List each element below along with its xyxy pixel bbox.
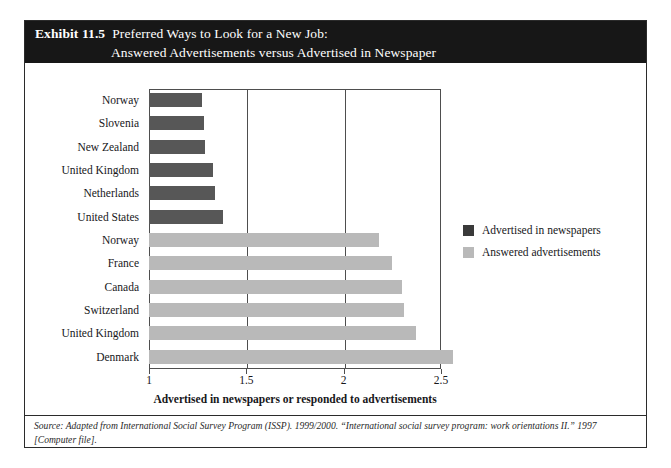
title-line-2: Answered Advertisements versus Advertise… <box>35 43 646 62</box>
x-tick-label: 2.5 <box>434 374 448 386</box>
x-tick-label: 1 <box>146 374 152 386</box>
exhibit-container: Exhibit 11.5Preferred Ways to Look for a… <box>24 20 647 448</box>
legend-item: Answered advertisements <box>463 241 643 263</box>
chart-area: NorwaySloveniaNew ZealandUnited KingdomN… <box>25 63 646 415</box>
bar <box>149 350 453 364</box>
category-label: United Kingdom <box>25 159 145 182</box>
category-label: Norway <box>25 229 145 252</box>
x-tick-label: 1.5 <box>239 374 253 386</box>
bar-row <box>149 322 441 345</box>
title-line-1: Exhibit 11.5Preferred Ways to Look for a… <box>35 24 646 43</box>
bar-row <box>149 136 441 159</box>
bar-row <box>149 206 441 229</box>
category-label: United Kingdom <box>25 322 145 345</box>
category-label: Canada <box>25 276 145 299</box>
bars-layer <box>149 89 441 369</box>
bar <box>149 303 404 317</box>
bar-row <box>149 276 441 299</box>
x-tick-label: 2 <box>341 374 347 386</box>
exhibit-number-label: Exhibit 11.5 <box>35 26 105 41</box>
legend-swatch-icon <box>463 225 474 236</box>
category-label: Switzerland <box>25 299 145 322</box>
bar-row <box>149 182 441 205</box>
x-axis-ticks: 11.522.5 <box>149 369 441 391</box>
category-label: Norway <box>25 89 145 112</box>
source-divider <box>25 415 646 416</box>
source-note: Source: Adapted from International Socia… <box>34 419 637 446</box>
bar-row <box>149 89 441 112</box>
legend-item: Advertised in newspapers <box>463 219 643 241</box>
category-label: United States <box>25 206 145 229</box>
category-label: Slovenia <box>25 112 145 135</box>
category-label: France <box>25 252 145 275</box>
exhibit-title-bar: Exhibit 11.5Preferred Ways to Look for a… <box>25 21 646 63</box>
bar <box>149 93 202 107</box>
chart-legend: Advertised in newspapersAnswered adverti… <box>463 219 643 263</box>
bar-row <box>149 299 441 322</box>
exhibit-title-text-1: Preferred Ways to Look for a New Job: <box>112 26 328 41</box>
bar-row <box>149 229 441 252</box>
bar <box>149 186 215 200</box>
bar <box>149 210 223 224</box>
legend-swatch-icon <box>463 247 474 258</box>
legend-label: Answered advertisements <box>482 246 600 258</box>
bar-row <box>149 346 441 369</box>
category-label: New Zealand <box>25 136 145 159</box>
legend-label: Advertised in newspapers <box>482 224 601 236</box>
bar-row <box>149 112 441 135</box>
bar <box>149 233 379 247</box>
x-axis-title: Advertised in newspapers or responded to… <box>149 393 441 405</box>
bar <box>149 326 416 340</box>
bar-row <box>149 252 441 275</box>
bar <box>149 256 392 270</box>
bar <box>149 280 402 294</box>
category-label: Netherlands <box>25 182 145 205</box>
bar <box>149 140 205 154</box>
bar <box>149 163 213 177</box>
bar <box>149 116 204 130</box>
bar-row <box>149 159 441 182</box>
category-label: Denmark <box>25 346 145 369</box>
category-axis-labels: NorwaySloveniaNew ZealandUnited KingdomN… <box>25 89 145 369</box>
